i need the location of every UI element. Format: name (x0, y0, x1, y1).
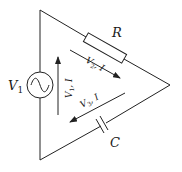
v2-label: V2, I (84, 55, 107, 74)
source-label: V1 (8, 78, 23, 95)
wires (40, 10, 170, 160)
capacitor-icon (96, 116, 108, 133)
capacitor-label: C (110, 135, 120, 150)
circuit-diagram: V1 R C V1, I V2, I V3, I (0, 0, 182, 172)
ac-source-icon (27, 72, 53, 98)
v1-label: V1, I (64, 78, 75, 98)
resistor-label: R (111, 25, 122, 40)
